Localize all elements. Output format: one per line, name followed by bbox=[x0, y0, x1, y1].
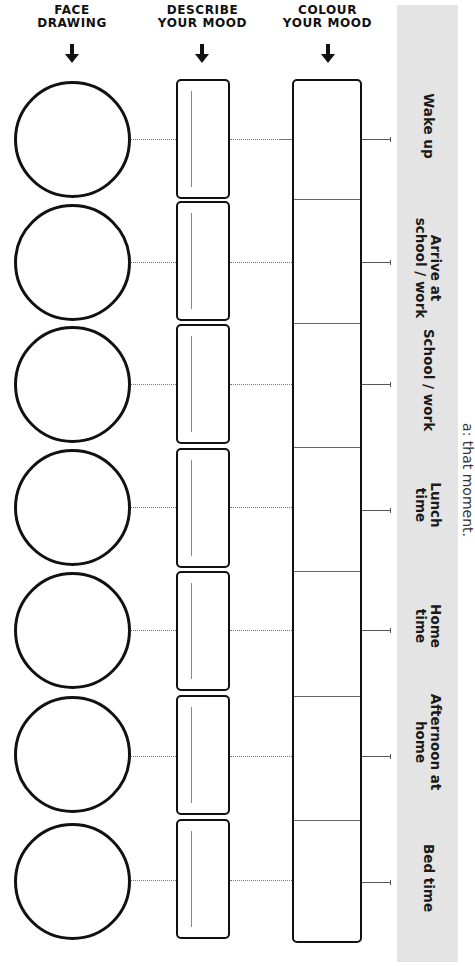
describe-mood-box[interactable] bbox=[176, 571, 230, 691]
connector-line bbox=[230, 880, 292, 881]
face-drawing-circle[interactable] bbox=[14, 326, 131, 443]
connector-line bbox=[230, 756, 292, 757]
header-describe-mood: DESCRIBE YOUR MOOD bbox=[150, 4, 255, 30]
timeline-tick bbox=[362, 384, 390, 385]
timeline-tick bbox=[362, 756, 390, 757]
arrow-down-icon bbox=[195, 44, 209, 64]
connector-line bbox=[230, 384, 292, 385]
timeline-tick bbox=[362, 630, 390, 631]
describe-mood-box[interactable] bbox=[176, 201, 230, 321]
describe-mood-box[interactable] bbox=[176, 695, 230, 815]
connector-line bbox=[131, 756, 176, 757]
header-colour-mood: COLOUR YOUR MOOD bbox=[275, 4, 380, 30]
timeline-tick bbox=[362, 139, 390, 140]
writing-line bbox=[191, 213, 192, 309]
writing-line bbox=[191, 707, 192, 803]
connector-line bbox=[131, 262, 176, 263]
writing-line bbox=[191, 336, 192, 432]
arrow-down-icon bbox=[65, 44, 79, 64]
connector-line bbox=[131, 384, 176, 385]
face-drawing-circle[interactable] bbox=[14, 81, 131, 198]
connector-line bbox=[131, 630, 176, 631]
connector-line bbox=[131, 507, 176, 508]
colour-divider bbox=[294, 199, 360, 200]
writing-line bbox=[191, 460, 192, 556]
face-drawing-circle[interactable] bbox=[14, 823, 131, 940]
face-drawing-circle[interactable] bbox=[14, 204, 131, 321]
describe-mood-box[interactable] bbox=[176, 324, 230, 444]
describe-mood-box[interactable] bbox=[176, 79, 230, 199]
connector-line bbox=[131, 139, 176, 140]
writing-line bbox=[191, 583, 192, 679]
timeline-tick bbox=[362, 510, 390, 511]
face-drawing-circle[interactable] bbox=[14, 449, 131, 566]
colour-divider bbox=[294, 447, 360, 448]
colour-divider bbox=[294, 571, 360, 572]
face-drawing-circle[interactable] bbox=[14, 572, 131, 689]
colour-mood-column[interactable] bbox=[292, 79, 362, 943]
connector-line bbox=[230, 507, 292, 508]
connector-line bbox=[230, 262, 292, 263]
connector-line bbox=[230, 630, 292, 631]
connector-line bbox=[280, 139, 292, 140]
describe-mood-box[interactable] bbox=[176, 819, 230, 939]
timeline-tick bbox=[362, 262, 390, 263]
face-drawing-circle[interactable] bbox=[14, 696, 131, 813]
colour-divider bbox=[294, 696, 360, 697]
colour-divider bbox=[294, 820, 360, 821]
header-face-drawing: FACE DRAWING bbox=[22, 4, 122, 30]
timeline-tick bbox=[362, 882, 390, 883]
connector-line bbox=[230, 139, 280, 140]
connector-line bbox=[131, 880, 176, 881]
colour-divider bbox=[294, 323, 360, 324]
writing-line bbox=[191, 831, 192, 927]
describe-mood-box[interactable] bbox=[176, 448, 230, 568]
writing-line bbox=[191, 91, 192, 187]
arrow-down-icon bbox=[321, 44, 335, 64]
